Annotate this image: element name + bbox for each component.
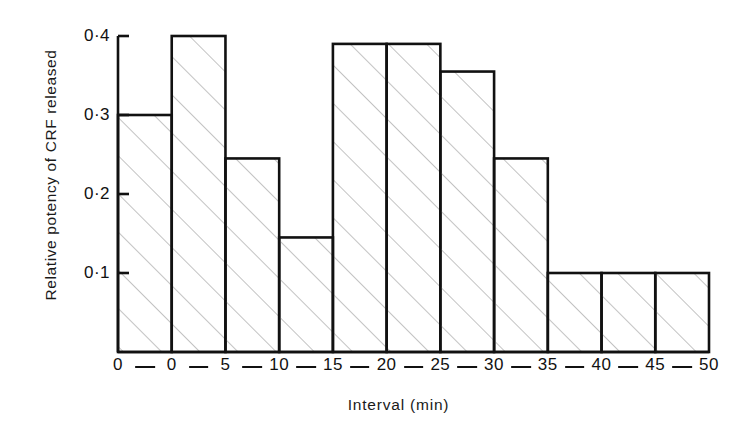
plot-area — [0, 0, 755, 436]
chart-figure: Relative potency of CRF released 0·4 0·3… — [0, 0, 755, 436]
bar — [494, 158, 548, 352]
bar — [279, 237, 333, 352]
bar — [655, 273, 709, 352]
x-axis-title: Interval (min) — [0, 396, 755, 414]
x-axis-title-text: Interval (min) — [306, 396, 450, 413]
bar — [387, 44, 441, 352]
bar — [172, 36, 226, 352]
bar-series — [118, 36, 709, 352]
bar — [225, 158, 279, 352]
bar — [548, 273, 602, 352]
bar — [333, 44, 387, 352]
bar — [118, 115, 172, 352]
bar — [602, 273, 656, 352]
bar — [440, 72, 494, 352]
